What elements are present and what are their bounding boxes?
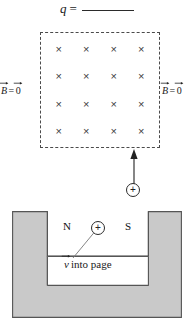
- diagram-canvas: q= × × × × × × × × × × × × × × × × B: [0, 0, 194, 325]
- zero-vector-left: 0: [16, 85, 21, 96]
- b-vector-right: B: [162, 85, 168, 96]
- field-x-icon: ×: [128, 118, 156, 145]
- field-x-icon: ×: [45, 91, 73, 118]
- zero-symbol: 0: [177, 85, 182, 96]
- charge-question-line: q=: [0, 1, 194, 17]
- field-x-icon: ×: [128, 91, 156, 118]
- field-x-icon: ×: [100, 63, 128, 90]
- field-x-icon: ×: [128, 36, 156, 63]
- b-field-zero-label-left: B = 0: [1, 85, 21, 96]
- field-x-icon: ×: [45, 63, 73, 90]
- field-x-icon: ×: [73, 63, 101, 90]
- field-x-icon: ×: [128, 63, 156, 90]
- field-x-icon: ×: [73, 91, 101, 118]
- b-symbol: B: [162, 85, 168, 96]
- velocity-into-page-label: v into page: [64, 258, 112, 270]
- b-symbol: B: [1, 85, 7, 96]
- field-x-icon: ×: [45, 118, 73, 145]
- pole-label-north: N: [63, 220, 71, 232]
- equals-sign: =: [70, 1, 77, 16]
- zero-symbol: 0: [16, 85, 21, 96]
- v-symbol: v: [64, 258, 69, 270]
- answer-blank[interactable]: [82, 9, 134, 11]
- field-x-icon: ×: [100, 91, 128, 118]
- charge-symbol: q: [60, 1, 67, 16]
- b-vector-left: B: [1, 85, 7, 96]
- pole-label-south: S: [125, 220, 131, 232]
- field-into-page-grid: × × × × × × × × × × × × × × × ×: [41, 33, 159, 147]
- field-x-icon: ×: [100, 36, 128, 63]
- field-x-icon: ×: [73, 36, 101, 63]
- b-field-zero-label-right: B = 0: [162, 85, 182, 96]
- field-x-icon: ×: [73, 118, 101, 145]
- velocity-direction-text: into page: [71, 258, 112, 270]
- equals-sign: =: [9, 85, 15, 96]
- zero-vector-right: 0: [177, 85, 182, 96]
- field-x-icon: ×: [100, 118, 128, 145]
- field-region-dashed-box: × × × × × × × × × × × × × × × ×: [40, 32, 160, 148]
- moving-charge-upper: +: [126, 183, 140, 197]
- equals-sign: =: [170, 85, 176, 96]
- field-x-icon: ×: [45, 36, 73, 63]
- moving-charge-in-gap: +: [91, 221, 105, 235]
- velocity-vector-symbol: v: [64, 258, 69, 270]
